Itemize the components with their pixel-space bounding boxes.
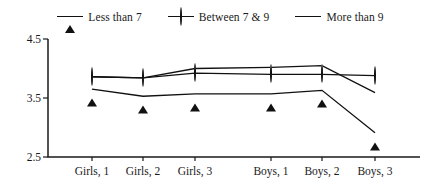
data-point-open-circle: [374, 67, 376, 85]
data-point-filled-triangle: [190, 86, 200, 104]
series-line-filled-square: [92, 66, 375, 93]
line-chart: Less than 7 Between 7 & 9 More than 9 2.…: [0, 0, 441, 189]
data-point-open-circle: [91, 68, 93, 86]
open-circle-icon: [91, 67, 93, 86]
y-tick-label-text: 4.5: [27, 33, 41, 45]
x-tick-label: Girls, 1: [75, 165, 110, 178]
open-circle-icon: [321, 64, 323, 83]
axes: [43, 39, 420, 161]
filled-triangle-icon: [190, 86, 200, 111]
data-point-filled-triangle: [266, 86, 276, 104]
filled-triangle-icon: [370, 125, 380, 150]
data-point-open-circle: [270, 65, 272, 83]
data-point-open-circle: [194, 64, 196, 82]
data-point-open-circle: [142, 69, 144, 87]
axis-lines: [48, 39, 420, 157]
filled-triangle-icon: [317, 83, 327, 108]
x-tick-label: Boys, 3: [357, 165, 392, 178]
x-tick-label: Boys, 2: [304, 165, 339, 178]
x-tick-label: Boys, 1: [253, 165, 288, 178]
plot-svg: [0, 0, 441, 189]
open-circle-icon: [142, 68, 144, 87]
plot-area: 2.53.54.5 Girls, 1Girls, 2Girls, 3Boys, …: [0, 0, 441, 189]
x-tick-label: Girls, 2: [126, 165, 161, 178]
filled-triangle-icon: [266, 86, 276, 111]
y-tick-label: 2.5: [8, 151, 41, 163]
x-tick-label: Girls, 3: [178, 165, 213, 178]
data-point-open-circle: [321, 65, 323, 83]
y-tick-label-text: 2.5: [27, 151, 41, 163]
open-circle-icon: [374, 66, 376, 85]
data-point-filled-triangle: [138, 89, 148, 107]
open-circle-icon: [270, 64, 272, 83]
y-tick-label: 4.5: [8, 33, 41, 45]
series-lines: [92, 66, 375, 133]
data-point-filled-triangle: [370, 125, 380, 143]
y-tick-label: 3.5: [8, 92, 41, 104]
open-circle-icon: [194, 63, 196, 82]
data-point-filled-triangle: [317, 83, 327, 101]
y-tick-label-text: 3.5: [27, 92, 41, 104]
series-line-filled-triangle: [92, 89, 375, 133]
filled-triangle-icon: [138, 89, 148, 114]
